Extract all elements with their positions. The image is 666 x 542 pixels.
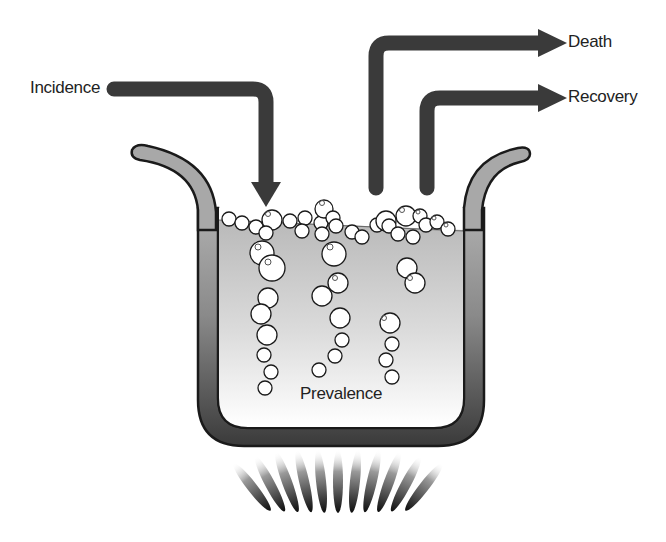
prevalence-label: Prevalence <box>300 384 382 404</box>
recovery-label: Recovery <box>568 87 637 107</box>
death-label: Death <box>568 32 612 52</box>
arrowhead-down-icon <box>251 182 281 207</box>
pot-rim-left <box>132 145 216 230</box>
arrowhead-right-icon <box>538 29 567 57</box>
incidence-label: Incidence <box>30 78 100 98</box>
arrowhead-right-icon <box>538 84 567 112</box>
flame-icon <box>230 449 447 514</box>
pot-rim-right <box>464 148 530 230</box>
